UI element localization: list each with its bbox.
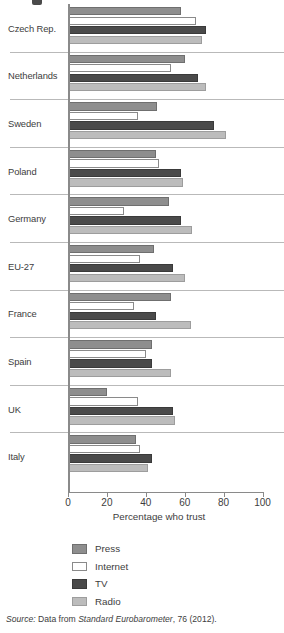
x-axis-tick-label: 100 bbox=[248, 497, 278, 508]
bar-tv bbox=[68, 407, 173, 415]
category-label: UK bbox=[8, 403, 66, 414]
legend-item: Radio bbox=[72, 593, 222, 611]
bar-chart-figure: Czech Rep.NetherlandsSwedenPolandGermany… bbox=[0, 0, 284, 633]
bar-tv bbox=[68, 264, 173, 272]
bar-group bbox=[68, 54, 284, 96]
bar-internet bbox=[68, 445, 140, 453]
bar-internet bbox=[68, 255, 140, 263]
group-separator-line bbox=[10, 290, 284, 291]
bar-radio bbox=[68, 83, 206, 91]
category-label: Netherlands bbox=[8, 70, 66, 81]
bar-press bbox=[68, 340, 152, 348]
legend-swatch-icon bbox=[72, 579, 87, 589]
bar-group bbox=[68, 197, 284, 239]
bar-radio bbox=[68, 36, 202, 44]
bar-internet bbox=[68, 207, 124, 215]
x-axis-tick-label: 0 bbox=[53, 497, 83, 508]
legend-item: Internet bbox=[72, 558, 222, 576]
legend-label: Internet bbox=[95, 561, 128, 572]
bar-group-row: France bbox=[0, 290, 284, 338]
source-publication: Standard Eurobarometer bbox=[78, 614, 173, 624]
bar-radio bbox=[68, 274, 185, 282]
category-label: EU-27 bbox=[8, 260, 66, 271]
bar-tv bbox=[68, 216, 181, 224]
bar-group bbox=[68, 149, 284, 191]
legend-swatch-icon bbox=[72, 544, 87, 554]
legend-label: TV bbox=[95, 578, 108, 589]
bar-internet bbox=[68, 350, 146, 358]
bar-group bbox=[68, 102, 284, 144]
plot-area: Czech Rep.NetherlandsSwedenPolandGermany… bbox=[0, 4, 284, 492]
category-label: Germany bbox=[8, 213, 66, 224]
bar-press bbox=[68, 197, 169, 205]
bar-group-row: EU-27 bbox=[0, 242, 284, 290]
bar-group bbox=[68, 340, 284, 382]
bar-tv bbox=[68, 359, 152, 367]
group-separator-line bbox=[10, 52, 284, 53]
bar-press bbox=[68, 293, 171, 301]
group-separator-line bbox=[10, 194, 284, 195]
bar-internet bbox=[68, 64, 171, 72]
bar-internet bbox=[68, 302, 134, 310]
category-label: Sweden bbox=[8, 117, 66, 128]
legend-item: TV bbox=[72, 575, 222, 593]
x-axis-tick-label: 60 bbox=[170, 497, 200, 508]
x-axis-tick bbox=[185, 492, 186, 497]
legend-label: Radio bbox=[95, 596, 121, 607]
x-axis-tick-label: 80 bbox=[209, 497, 239, 508]
bar-group-row: Germany bbox=[0, 194, 284, 242]
bar-radio bbox=[68, 416, 175, 424]
x-axis-tick-label: 20 bbox=[92, 497, 122, 508]
legend-label: Press bbox=[95, 543, 120, 554]
bar-tv bbox=[68, 121, 214, 129]
x-axis-tick bbox=[107, 492, 108, 497]
x-axis-tick-label: 40 bbox=[131, 497, 161, 508]
bar-internet bbox=[68, 159, 159, 167]
x-axis-tick bbox=[263, 492, 264, 497]
group-separator-line bbox=[10, 99, 284, 100]
x-axis-tick bbox=[224, 492, 225, 497]
bar-internet bbox=[68, 112, 138, 120]
bar-radio bbox=[68, 131, 226, 139]
bar-press bbox=[68, 150, 156, 158]
bar-tv bbox=[68, 169, 181, 177]
x-axis-line bbox=[68, 492, 264, 493]
bar-group-row: UK bbox=[0, 385, 284, 433]
legend-item: Press bbox=[72, 540, 222, 558]
bar-radio bbox=[68, 464, 148, 472]
bar-radio bbox=[68, 369, 171, 377]
bar-press bbox=[68, 388, 107, 396]
bar-radio bbox=[68, 178, 183, 186]
bar-tv bbox=[68, 74, 198, 82]
bar-press bbox=[68, 435, 136, 443]
bar-tv bbox=[68, 312, 156, 320]
source-text-after: , 76 (2012). bbox=[173, 614, 217, 624]
group-separator-line bbox=[10, 432, 284, 433]
category-label: France bbox=[8, 308, 66, 319]
source-prefix: Source: bbox=[6, 614, 36, 624]
bar-internet bbox=[68, 17, 196, 25]
bar-group bbox=[68, 387, 284, 429]
bar-group-row: Italy bbox=[0, 432, 284, 480]
bar-group bbox=[68, 7, 284, 49]
group-separator-line bbox=[10, 242, 284, 243]
bar-press bbox=[68, 55, 185, 63]
bar-radio bbox=[68, 321, 191, 329]
bar-press bbox=[68, 7, 181, 15]
category-label: Italy bbox=[8, 451, 66, 462]
bar-group-row: Poland bbox=[0, 147, 284, 195]
bar-group bbox=[68, 435, 284, 477]
bar-group-row: Netherlands bbox=[0, 52, 284, 100]
x-axis-title: Percentage who trust bbox=[0, 511, 284, 522]
bar-tv bbox=[68, 26, 206, 34]
bar-radio bbox=[68, 226, 192, 234]
bar-press bbox=[68, 102, 157, 110]
bar-group bbox=[68, 245, 284, 287]
bar-press bbox=[68, 245, 154, 253]
legend-swatch-icon bbox=[72, 597, 87, 607]
group-separator-line bbox=[10, 337, 284, 338]
category-label: Poland bbox=[8, 165, 66, 176]
bar-group-row: Czech Rep. bbox=[0, 4, 284, 52]
source-text-before: Data from bbox=[38, 614, 76, 624]
category-label: Spain bbox=[8, 355, 66, 366]
